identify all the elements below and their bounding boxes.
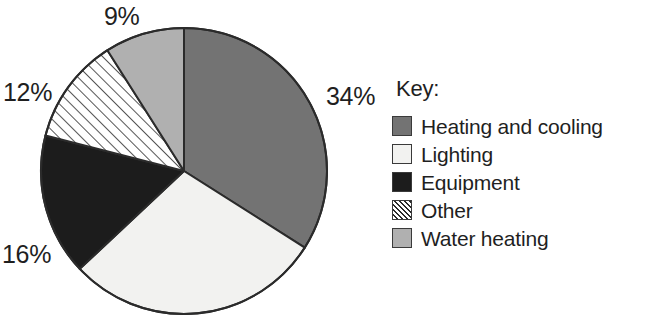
legend-item-water-heating: Water heating xyxy=(392,224,642,252)
legend-item-label: Equipment xyxy=(421,172,520,193)
legend-item-other: Other xyxy=(392,196,642,224)
pie-slices-group xyxy=(41,28,327,314)
slice-label-water-heating: 9% xyxy=(104,4,140,29)
legend-swatch-icon xyxy=(392,200,412,220)
legend-item-label: Other xyxy=(421,200,473,221)
legend-swatch-icon xyxy=(392,144,412,164)
legend: Key: Heating and cooling Lighting Equipm… xyxy=(392,78,642,252)
legend-swatch-icon xyxy=(392,116,412,136)
legend-item-lighting: Lighting xyxy=(392,140,642,168)
pie-chart-figure: 9% 12% 16% 34% Key: Heating and cooling … xyxy=(0,0,648,319)
slice-label-equipment: 16% xyxy=(2,242,51,267)
legend-item-equipment: Equipment xyxy=(392,168,642,196)
slice-label-other: 12% xyxy=(3,80,52,105)
legend-item-label: Heating and cooling xyxy=(421,116,603,137)
legend-item-heating-and-cooling: Heating and cooling xyxy=(392,112,642,140)
pie-chart-area: 9% 12% 16% 34% xyxy=(0,0,380,319)
legend-title: Key: xyxy=(396,78,642,100)
legend-swatch-icon xyxy=(392,172,412,192)
legend-swatch-icon xyxy=(392,228,412,248)
legend-item-label: Water heating xyxy=(421,228,548,249)
slice-label-heating-and-cooling: 34% xyxy=(326,84,375,109)
pie-chart-svg xyxy=(0,0,380,319)
legend-item-label: Lighting xyxy=(421,144,493,165)
